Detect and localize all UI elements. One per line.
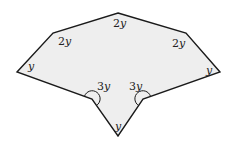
angle-label-left-reflex: 3y xyxy=(97,80,111,93)
angle-label-bottom: y xyxy=(114,120,122,133)
angle-label-right: y xyxy=(205,64,213,77)
angle-label-left: y xyxy=(27,60,35,73)
angle-label-upper-right: 2y xyxy=(172,37,186,50)
angle-label-top: 2y xyxy=(113,17,127,30)
angle-label-upper-left: 2y xyxy=(58,35,72,48)
concave-octagon xyxy=(17,13,220,136)
polygon-diagram: 2y 2y 2y y y 3y 3y y xyxy=(0,0,230,148)
diagram-canvas: 2y 2y 2y y y 3y 3y y xyxy=(0,0,230,148)
angle-label-right-reflex: 3y xyxy=(129,80,143,93)
